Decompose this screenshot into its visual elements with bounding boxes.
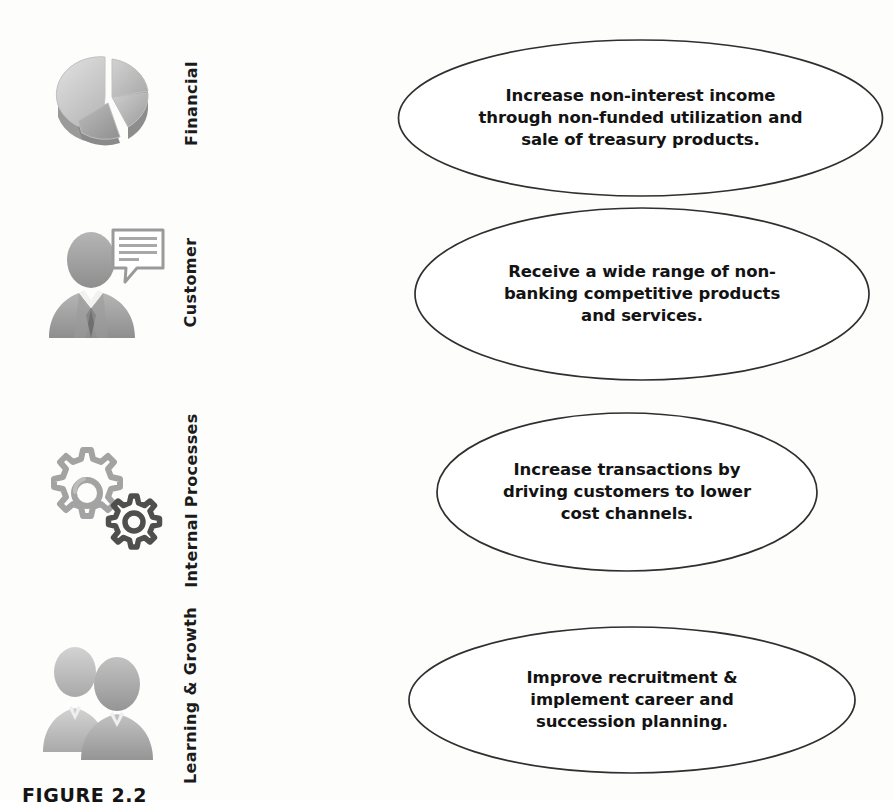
objective-ellipse-financial: Increase non-interest income through non…: [396, 38, 885, 198]
gears-icon: [30, 438, 180, 562]
pie-chart-icon: [30, 28, 180, 178]
scorecard-row-learning-growth: Learning & Growth Improve recruitment & …: [0, 600, 893, 790]
people-group-icon: [30, 628, 180, 768]
scorecard-row-customer: Customer Receive a wide range of non- ba…: [0, 205, 893, 380]
scorecard-row-financial: Financial Increase non-interest income t…: [0, 20, 893, 195]
objective-text: Improve recruitment & implement career a…: [469, 667, 794, 733]
perspective-label-text: Internal Processes: [182, 413, 201, 588]
figure-caption: FIGURE 2.2: [22, 784, 147, 806]
perspective-label-text: Customer: [182, 237, 201, 327]
objective-text: Receive a wide range of non- banking com…: [467, 261, 817, 327]
perspective-label-learning-growth: Learning & Growth: [168, 610, 214, 780]
objective-ellipse-learning-growth: Improve recruitment & implement career a…: [406, 624, 858, 776]
objective-text: Increase non-interest income through non…: [455, 85, 827, 151]
perspective-label-text: Learning & Growth: [182, 606, 201, 783]
objective-ellipse-customer: Receive a wide range of non- banking com…: [412, 205, 872, 383]
customer-speech-bubble-icon: [30, 217, 180, 347]
scorecard-row-internal-processes: Internal Processes Increase transactions…: [0, 400, 893, 585]
perspective-label-internal-processes: Internal Processes: [168, 420, 214, 580]
perspective-label-customer: Customer: [168, 217, 214, 347]
objective-ellipse-internal-processes: Increase transactions by driving custome…: [434, 410, 820, 574]
perspective-label-text: Financial: [182, 61, 201, 146]
perspective-label-financial: Financial: [168, 28, 214, 178]
objective-text: Increase transactions by driving custome…: [465, 459, 789, 525]
